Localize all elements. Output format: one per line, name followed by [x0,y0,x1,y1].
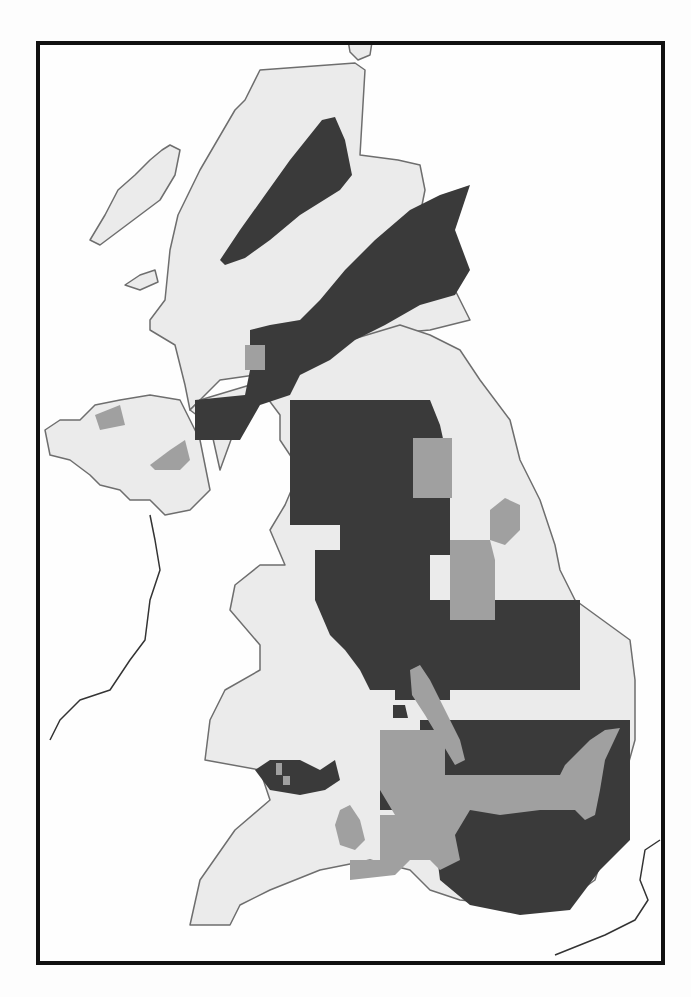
wales-small-patch-2[interactable] [283,776,290,785]
orkney[interactable] [348,41,372,60]
outer-hebrides[interactable] [90,145,180,245]
lincs-strip[interactable] [450,540,495,620]
uk-map[interactable] [36,41,665,965]
skye-island[interactable] [125,270,158,290]
scotland-lowland-patch[interactable] [245,345,265,370]
wales-small-patches[interactable] [276,763,282,775]
ireland-east-coast[interactable] [50,515,160,740]
map-frame [36,41,665,965]
yorkshire-block[interactable] [413,438,452,498]
